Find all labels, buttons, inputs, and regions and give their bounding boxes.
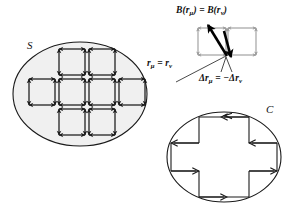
displacement-equality-label: Δrμ = −Δrν: [199, 74, 242, 85]
equals-sign: =: [197, 5, 207, 15]
equals-minus: = −: [213, 73, 229, 83]
inset-cell-right: [228, 28, 256, 55]
delta-r-mu: Δr: [199, 73, 209, 83]
surface-region-s: [13, 42, 147, 146]
contour-region-c: [167, 112, 281, 202]
leader-line-delta: [221, 57, 232, 72]
b-rparen-2: ): [224, 5, 227, 15]
surface-label-s: S: [27, 40, 33, 51]
field-equality-label: B(rμ) = B(rν): [176, 6, 227, 17]
bold-arrow-up-left: [208, 25, 227, 56]
position-equality-label: rμ = rν: [147, 59, 172, 70]
equals-sign-2: =: [155, 58, 165, 68]
physics-diagram: [0, 0, 301, 214]
contour-label-c: C: [266, 104, 273, 115]
subscript-nu-2: ν: [169, 62, 172, 69]
subscript-nu-3: ν: [239, 77, 242, 84]
surface-ellipse-outline: [13, 42, 147, 146]
delta-r-nu: Δr: [229, 73, 239, 83]
contour-ellipse-outline: [167, 112, 281, 202]
